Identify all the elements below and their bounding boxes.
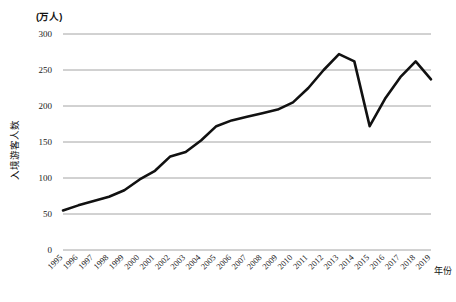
x-axis-tick-label: 2006	[214, 252, 233, 271]
x-axis-tick-labels: 1995199619971998199920002001200220032004…	[45, 252, 432, 272]
y-axis-tick-label: 0	[48, 245, 53, 255]
x-axis-tick-label: 2018	[398, 252, 417, 271]
x-axis-tick-label: 1999	[107, 252, 126, 271]
y-axis-tick-label: 100	[39, 173, 53, 183]
x-axis-tick-label: 2015	[352, 252, 371, 271]
x-axis-tick-label: 2005	[199, 252, 218, 271]
y-axis-tick-label: 50	[43, 209, 53, 219]
x-axis-tick-label: 2010	[275, 252, 294, 271]
x-axis-tick-label: 2009	[260, 252, 279, 271]
x-axis-tick-label: 2004	[183, 252, 203, 272]
x-axis-tick-label: 2011	[291, 252, 310, 271]
x-axis-tick-label: 2008	[245, 252, 264, 271]
x-axis-tick-label: 2007	[229, 252, 248, 271]
gridlines-group	[63, 34, 431, 250]
line-chart-svg: (万人) 入境游客人数 050100150200250300 199519961…	[0, 0, 456, 302]
x-axis-tick-label: 2000	[122, 252, 141, 271]
x-axis-tick-label: 2014	[337, 252, 357, 272]
y-axis-tick-labels: 050100150200250300	[39, 29, 53, 255]
x-axis-title: 年份	[434, 265, 452, 276]
x-axis-tick-label: 1997	[76, 252, 95, 271]
x-axis-tick-label: 2016	[367, 252, 386, 271]
x-axis-tick-label: 2001	[137, 252, 156, 271]
x-axis-tick-label: 1996	[61, 252, 80, 271]
data-series-line	[63, 54, 431, 210]
x-axis-tick-label: 2012	[306, 252, 325, 271]
x-axis-tick-label: 2019	[413, 252, 432, 271]
y-axis-title: 入境游客人数	[9, 120, 20, 180]
y-axis-tick-label: 200	[39, 101, 53, 111]
chart-figure: (万人) 入境游客人数 050100150200250300 199519961…	[0, 0, 456, 302]
x-axis-tick-label: 2013	[321, 252, 340, 271]
y-axis-tick-label: 250	[39, 65, 53, 75]
y-axis-tick-label: 150	[39, 137, 53, 147]
y-axis-tick-label: 300	[39, 29, 53, 39]
x-axis-tick-label: 1998	[91, 252, 110, 271]
x-axis-tick-label: 2003	[168, 252, 187, 271]
x-axis-tick-label: 2017	[383, 252, 402, 271]
y-axis-unit-label: (万人)	[36, 11, 62, 22]
x-axis-tick-label: 2002	[153, 252, 172, 271]
x-axis-tick-label: 1995	[45, 252, 64, 271]
